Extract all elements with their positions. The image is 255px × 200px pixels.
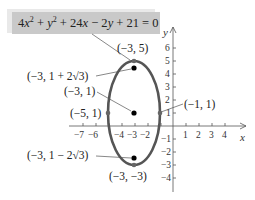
label-upper-focus: (−3, 1 + 2√3) <box>27 70 88 82</box>
right-vertex-point <box>158 111 163 116</box>
x-tick-label: −6 <box>88 130 98 140</box>
x-tick-label: 3 <box>209 130 214 140</box>
leader-right-vertex <box>161 104 183 112</box>
x-axis-label: x <box>240 131 245 143</box>
x-tick-label: −4 <box>114 130 124 140</box>
label-top-vertex: (−3, 5) <box>117 42 148 54</box>
y-tick-label: −4 <box>161 173 171 183</box>
label-bottom-vertex: (−3, −3) <box>109 170 147 182</box>
x-tick-label: −2 <box>140 130 150 140</box>
y-tick-label: 2 <box>165 95 170 105</box>
x-axis <box>69 123 246 129</box>
left-vertex-point <box>106 111 111 116</box>
lower-focus-point <box>131 155 136 160</box>
y-tick-label: −1 <box>161 134 171 144</box>
label-right-vertex: (−1, 1) <box>184 98 215 110</box>
y-tick-label: 5 <box>165 56 170 66</box>
leader-center <box>97 92 131 111</box>
x-tick-label: 4 <box>222 130 227 140</box>
label-lower-focus: (−3, 1 − 2√3) <box>27 149 88 161</box>
label-left-vertex: (−5, 1) <box>70 107 101 119</box>
bottom-vertex-point <box>132 163 137 168</box>
x-tick-label: 1 <box>183 130 188 140</box>
center-point <box>131 110 136 115</box>
y-tick-label: 6 <box>165 43 170 53</box>
focus-points <box>131 65 136 160</box>
x-tick-label: −3 <box>127 130 137 140</box>
label-center: (−3, 1) <box>64 85 95 97</box>
top-vertex-point <box>132 59 137 64</box>
y-tick-label: −2 <box>161 147 171 157</box>
y-axis-label: y <box>163 26 168 38</box>
leader-lower-focus <box>96 156 131 158</box>
y-tick-label: 1 <box>166 108 171 118</box>
y-tick-label: 4 <box>165 69 170 79</box>
leader-upper-focus <box>96 69 131 76</box>
x-tick-label: −7 <box>74 130 84 140</box>
upper-focus-point <box>131 65 136 70</box>
y-tick-label: −3 <box>161 160 171 170</box>
y-tick-label: 3 <box>165 82 170 92</box>
x-tick-label: 2 <box>196 130 201 140</box>
